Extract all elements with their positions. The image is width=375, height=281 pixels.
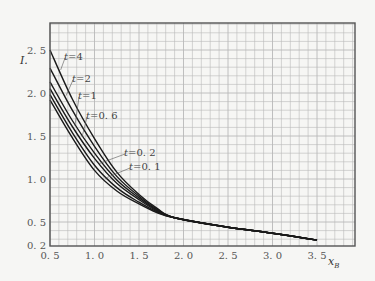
x-tick-label: 2. 0 — [174, 250, 193, 261]
chart: 0. 51. 01. 52. 02. 53. 03. 5 0. 20. 51. … — [0, 0, 375, 281]
grid — [50, 23, 355, 246]
curve-label: t=0. 6 — [86, 110, 118, 121]
curve-label: t=4 — [64, 51, 83, 62]
y-axis-tick-labels: 0. 20. 51. 01. 52. 02. 5 — [27, 45, 46, 251]
plot-frame — [50, 23, 355, 246]
x-tick-label: 1. 0 — [85, 250, 104, 261]
x-tick-label: 2. 5 — [218, 250, 237, 261]
y-tick-label: 2. 0 — [27, 88, 46, 99]
y-tick-label: 1. 5 — [27, 131, 46, 142]
curve-label: t=0. 2 — [124, 147, 156, 158]
curve-label: t=1 — [78, 90, 97, 101]
y-tick-label: 0. 2 — [27, 240, 46, 251]
curve-label: t=2 — [72, 73, 91, 84]
x-tick-label: 1. 5 — [129, 250, 148, 261]
x-tick-label: 0. 5 — [40, 250, 59, 261]
y-tick-label: 2. 5 — [27, 45, 46, 56]
x-tick-label: 3. 0 — [263, 250, 282, 261]
x-axis-label: xB — [328, 255, 339, 270]
y-axis-label: I. — [19, 54, 28, 67]
x-axis-tick-labels: 0. 51. 01. 52. 02. 53. 03. 5 — [40, 250, 326, 261]
x-tick-label: 3. 5 — [307, 250, 326, 261]
y-tick-label: 1. 0 — [27, 174, 46, 185]
curve-label: t=0. 1 — [129, 161, 161, 172]
y-tick-label: 0. 5 — [27, 217, 46, 228]
